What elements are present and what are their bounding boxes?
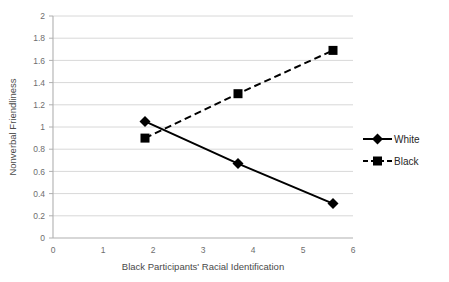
line-chart: 2 1.8 1.6 1.4 1.2 1 0.8 0.6 0.4 0.2 0 0 …	[0, 0, 449, 282]
y-tick-label: 2	[40, 11, 45, 21]
y-tick-label: 1.6	[33, 56, 45, 66]
x-tick-label: 1	[101, 245, 106, 255]
y-tick-label: 1.2	[33, 100, 45, 110]
y-tick-label: 0.6	[33, 167, 45, 177]
chart-container: 2 1.8 1.6 1.4 1.2 1 0.8 0.6 0.4 0.2 0 0 …	[0, 0, 449, 282]
y-tick-label: 1.4	[33, 78, 45, 88]
square-marker-icon	[373, 157, 382, 166]
y-tick-label: 0.4	[33, 189, 45, 199]
x-tick-label: 2	[151, 245, 156, 255]
data-point-black-3	[329, 46, 338, 55]
x-tick-label: 6	[351, 245, 356, 255]
chart-background	[0, 0, 449, 282]
y-tick-label: 1	[40, 122, 45, 132]
x-tick-label: 4	[251, 245, 256, 255]
data-point-black-1	[141, 134, 150, 143]
x-tick-label: 0	[51, 245, 56, 255]
legend-label-black: Black	[394, 156, 419, 167]
legend-label-white: White	[394, 134, 420, 145]
x-axis-title: Black Participants' Racial Identificatio…	[122, 261, 284, 272]
y-tick-label: 1.8	[33, 33, 45, 43]
x-tick-label: 3	[201, 245, 206, 255]
y-tick-label: 0	[40, 233, 45, 243]
y-tick-label: 0.2	[33, 211, 45, 221]
x-tick-label: 5	[301, 245, 306, 255]
y-axis-title: Nonverbal Friendliness	[7, 78, 18, 175]
y-tick-label: 0.8	[33, 144, 45, 154]
data-point-black-2	[234, 89, 243, 98]
